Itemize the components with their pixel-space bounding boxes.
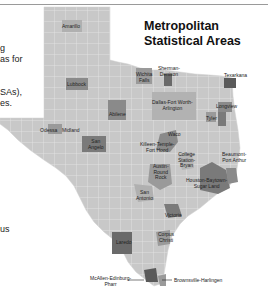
label-houston: Houston-Baytown-Sugar Land bbox=[186, 178, 227, 189]
label-amarillo: Amarillo bbox=[62, 24, 80, 30]
label-tyler: Tyler bbox=[206, 116, 217, 122]
label-victoria: Victoria bbox=[165, 213, 182, 219]
map-title-line2: Statistical Areas bbox=[144, 34, 241, 49]
label-corpus-christi: CorpusChristi bbox=[158, 232, 174, 243]
label-austin: Austin-RoundRock bbox=[153, 164, 169, 181]
msa-beaumont bbox=[226, 168, 238, 184]
label-abilene: Abilene bbox=[109, 112, 126, 118]
label-longview: Longview bbox=[216, 104, 237, 110]
label-san-angelo: SanAngelo bbox=[88, 139, 104, 150]
label-dallas: Dallas-Fort Worth-Arlington bbox=[152, 100, 193, 111]
msa-texarkana bbox=[224, 78, 236, 88]
label-midland: Midland bbox=[62, 128, 80, 134]
label-mcallen: McAllen-Edinburg-Pharr bbox=[90, 276, 131, 287]
msa-tyler-2 bbox=[218, 112, 226, 126]
map-title: Metropolitan Statistical Areas bbox=[144, 19, 241, 49]
label-sherman-denison: Sherman-Denison bbox=[158, 66, 180, 77]
label-odessa: Odessa bbox=[40, 128, 57, 134]
map-title-line1: Metropolitan bbox=[144, 19, 241, 34]
label-brownsville: Brownsville-Harlingen bbox=[174, 278, 222, 284]
label-lubbock: Lubbock bbox=[67, 82, 86, 88]
msa-mcallen bbox=[144, 268, 158, 282]
label-laredo: Laredo bbox=[116, 240, 132, 246]
label-san-antonio: SanAntonio bbox=[136, 190, 153, 201]
label-waco: Waco bbox=[168, 132, 181, 138]
label-college-station: CollegeStation-Bryan bbox=[178, 152, 195, 169]
label-killeen-temple: Killeen-Temple-Fort Hood bbox=[140, 142, 174, 153]
label-texarkana: Texarkana bbox=[224, 73, 247, 79]
label-beaumont: Beaumont-Port Arthur bbox=[222, 152, 246, 163]
label-wichita-falls: WichitaFalls bbox=[136, 72, 152, 83]
